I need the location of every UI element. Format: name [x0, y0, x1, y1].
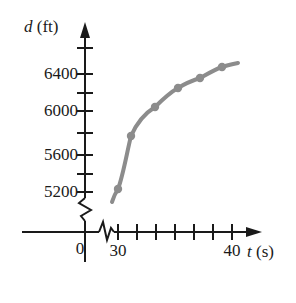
x-axis: [22, 222, 262, 240]
y-tick-label-5200: 5200: [18, 183, 78, 200]
y-axis-arrowhead: [80, 22, 90, 38]
y-axis-title: d (ft): [24, 18, 58, 35]
data-point-3: [151, 103, 159, 111]
x-axis-break-symbol: [99, 222, 114, 240]
data-point-6: [218, 63, 226, 71]
y-axis: [77, 22, 93, 262]
y-axis-title-variable: d: [24, 17, 33, 36]
data-point-markers: [114, 63, 226, 193]
x-tick-label-30: 30: [98, 242, 138, 259]
data-point-2: [127, 132, 135, 140]
y-tick-label-5600: 5600: [18, 146, 78, 163]
y-tick-label-6400: 6400: [18, 65, 78, 82]
data-point-5: [196, 74, 204, 82]
data-point-1: [114, 185, 122, 193]
y-tick-label-6000: 6000: [18, 102, 78, 119]
data-series-curve: [112, 63, 238, 202]
x-axis-arrowhead: [246, 227, 262, 237]
distance-vs-time-chart: d (ft) t (s) 6400 6000 5600 5200 0 30 40: [0, 0, 296, 303]
y-axis-break-symbol: [79, 198, 91, 221]
x-axis-title-unit: (s): [252, 242, 274, 261]
data-point-4: [174, 84, 182, 92]
y-axis-title-unit: (ft): [33, 17, 59, 36]
origin-label: 0: [60, 240, 100, 257]
x-tick-label-40: 40: [212, 242, 252, 259]
